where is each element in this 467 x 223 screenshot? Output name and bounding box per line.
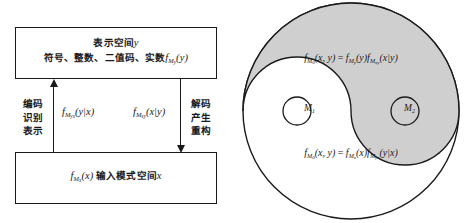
encode-label-line-3: 表示 (20, 124, 46, 138)
figure-root: 表示空间y 符号、整数、二值码、实数fMy(y) fMx(x) 输入模式空间x … (0, 0, 467, 223)
bottom-formula-rhs2-arg: (y|x) (379, 147, 397, 158)
decode-arrow-head-icon (177, 145, 185, 153)
decode-formula-arg: (x|y) (146, 106, 165, 117)
input-pattern-space-title: fMx(x) 输入模式空间x (70, 168, 161, 188)
input-space-var: x (157, 170, 162, 181)
decode-label-line-2: 产生 (188, 111, 214, 125)
node-label-m2-sub: 2 (412, 108, 415, 114)
representation-space-title-cn: 表示空间 (93, 37, 133, 48)
decode-label-line-3: 重构 (188, 124, 214, 138)
top-formula-rhs1-arg: (y) (356, 52, 367, 63)
bottom-formula-rhs1-arg: (x) (356, 147, 367, 158)
input-pattern-space-box: fMx(x) 输入模式空间x (15, 152, 217, 204)
bottom-formula-lhs-arg: (x, y) (315, 147, 336, 158)
node-label-m1-text: M (304, 103, 312, 113)
node-label-m2-text: M (404, 103, 412, 113)
top-formula-rhs2-arg: (x|y) (379, 52, 397, 63)
encode-arrow-head-icon (50, 79, 58, 87)
representation-space-subtitle: 符号、整数、二值码、实数fMy(y) (44, 50, 188, 70)
taiji-top-formula: fM0(x, y) = fMy(y)fMxy(x|y) (235, 52, 467, 65)
taiji-svg (235, 0, 467, 223)
representation-space-subtitle-cn: 符号、整数、二值码、实数 (44, 52, 165, 63)
block-diagram-panel: 表示空间y 符号、整数、二值码、实数fMy(y) fMx(x) 输入模式空间x … (0, 0, 232, 223)
representation-space-box: 表示空间y 符号、整数、二值码、实数fMy(y) (15, 27, 217, 79)
taiji-bottom-formula: fM0(x, y) = fMx(x)fMyx(y|x) (235, 147, 467, 160)
taiji-diagram-panel: fM0(x, y) = fMy(y)fMxy(x|y) fM0(x, y) = … (235, 0, 467, 223)
decode-formula: fMxy(x|y) (133, 106, 165, 119)
encode-arrow-shaft (53, 86, 54, 152)
encode-label-group: 编码 识别 表示 (20, 97, 46, 138)
node-label-m1: M1 (304, 103, 315, 114)
input-space-cn: 输入模式空间 (96, 170, 157, 181)
decode-label-group: 解码 产生 重构 (188, 97, 214, 138)
input-space-arg: (x) (81, 170, 93, 181)
representation-space-title: 表示空间y (93, 35, 138, 50)
decode-arrow-shaft (180, 79, 181, 145)
representation-space-arg: (y) (176, 52, 188, 63)
node-label-m2: M2 (404, 103, 415, 114)
encode-formula: fMyx(y|x) (62, 106, 94, 119)
encode-formula-arg: (y|x) (75, 106, 94, 117)
top-formula-equals: = (338, 52, 344, 63)
top-formula-lhs-arg: (x, y) (315, 52, 336, 63)
encode-label-line-2: 识别 (20, 111, 46, 125)
node-label-m1-sub: 1 (312, 108, 315, 114)
bottom-formula-equals: = (338, 147, 344, 158)
decode-label-line-1: 解码 (188, 97, 214, 111)
encode-label-line-1: 编码 (20, 97, 46, 111)
representation-space-title-var: y (134, 37, 139, 48)
